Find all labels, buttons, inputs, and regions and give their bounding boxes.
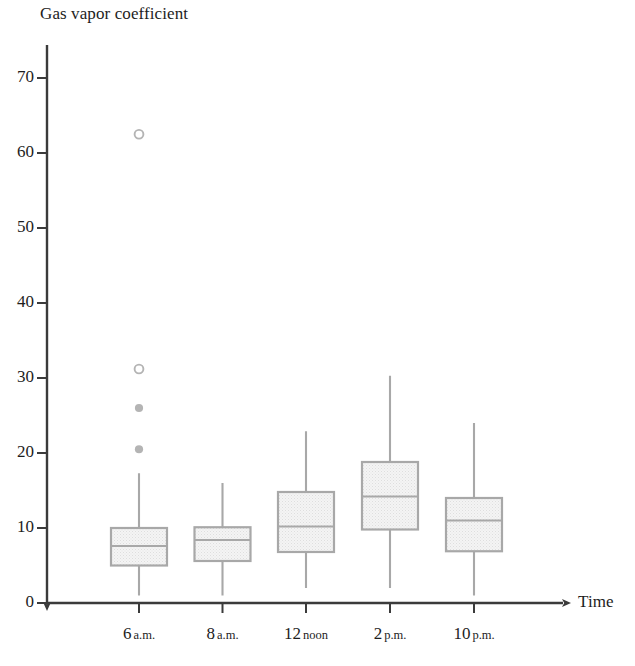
x-tick-label-number: 12: [284, 624, 301, 643]
x-tick-label-period: noon: [303, 628, 328, 642]
box-plot-1: [111, 130, 167, 596]
box-plot-4: [362, 376, 418, 588]
x-tick-label-number: 10: [453, 624, 470, 643]
x-tick-label-number: 8: [206, 624, 215, 643]
outlier-extreme: [135, 130, 144, 139]
x-axis-ticks: [139, 603, 474, 613]
y-tick-label-50: 50: [0, 217, 34, 237]
x-tick-label-number: 2: [374, 624, 383, 643]
box-plot-2: [195, 483, 251, 596]
x-tick-label-period: a.m.: [133, 628, 155, 642]
y-tick-label-0: 0: [0, 592, 34, 612]
x-tick-label-period: p.m.: [384, 628, 406, 642]
outlier-mild: [135, 445, 143, 453]
box-plot-5: [446, 423, 502, 596]
box-plot-chart: Gas vapor coefficient Time 0102030405060…: [0, 0, 635, 666]
x-tick-label-period: p.m.: [472, 628, 494, 642]
box-iqr: [446, 498, 502, 551]
x-tick-label-2: 8a.m.: [206, 624, 238, 644]
outlier-mild: [135, 404, 143, 412]
x-tick-label-1: 6a.m.: [123, 624, 155, 644]
x-tick-label-period: a.m.: [217, 628, 239, 642]
y-tick-label-20: 20: [0, 442, 34, 462]
y-tick-label-10: 10: [0, 517, 34, 537]
x-tick-label-4: 2p.m.: [374, 624, 407, 644]
x-tick-label-number: 6: [123, 624, 132, 643]
outlier-extreme: [135, 365, 144, 374]
x-tick-label-5: 10p.m.: [453, 624, 494, 644]
y-tick-label-60: 60: [0, 142, 34, 162]
y-tick-label-40: 40: [0, 292, 34, 312]
x-tick-label-3: 12noon: [284, 624, 328, 644]
plot-area: [0, 0, 635, 666]
box-iqr: [278, 492, 334, 552]
y-axis-ticks: [37, 78, 47, 603]
box-iqr: [195, 527, 251, 561]
y-tick-label-70: 70: [0, 67, 34, 87]
box-plot-3: [278, 431, 334, 588]
box-plots: [111, 130, 502, 596]
y-tick-label-30: 30: [0, 367, 34, 387]
